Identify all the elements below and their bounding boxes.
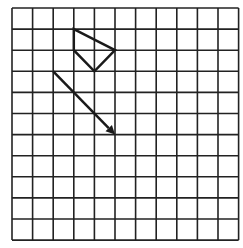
grid-diagram [0, 0, 243, 248]
grid-lines [12, 8, 239, 240]
arrow-shaft [53, 71, 109, 128]
